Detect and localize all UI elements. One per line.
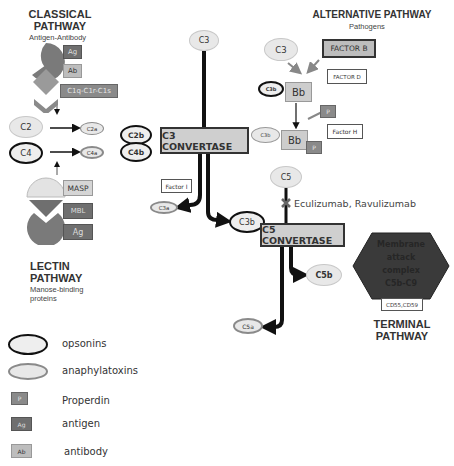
factor-d-box: FACTOR D — [327, 69, 367, 84]
factor-h-box: Factor H — [327, 124, 363, 139]
c5a-oval: C5a — [233, 318, 263, 334]
legend-label-opsonins: opsonins — [62, 338, 106, 349]
masp-box: MASP — [63, 180, 93, 196]
c1-complex-box: C1q-C1r-C1s — [60, 84, 118, 98]
c3-oval-top: C3 — [189, 30, 219, 51]
mac-line1: Membrane — [372, 238, 430, 251]
legend-opsonin-oval-icon — [8, 334, 48, 355]
terminal-title-line1: TERMINAL — [370, 318, 434, 330]
legend-label-properdin: Properdin — [62, 395, 110, 406]
classical-subtitle: Antigen-Antibody — [29, 33, 86, 42]
terminal-pathway-title: TERMINAL PATHWAY — [370, 318, 434, 342]
legend: opsonins anaphylatoxins P Properdin Ag a… — [0, 325, 200, 465]
lectin-subtitle-line1: Manose-binding — [30, 285, 83, 294]
ag-box-classical: Ag — [63, 45, 82, 59]
legend-label-antibody: antibody — [64, 446, 108, 457]
lectin-pathway-title: LECTIN PATHWAY — [30, 260, 82, 284]
c5-oval: C5 — [270, 166, 302, 188]
mac-line3: complex — [372, 264, 430, 277]
c3a-oval: C3a — [150, 201, 178, 214]
mbl-box: MBL — [63, 203, 93, 219]
c5-convertase-box: C5 CONVERTASE — [260, 223, 345, 247]
c3b-oval-alt-bottom: C3b — [251, 127, 280, 143]
bb-box-bottom: Bb — [281, 130, 308, 150]
c2a-oval: C2a — [80, 122, 104, 135]
legend-label-anaphylatoxins: anaphylatoxins — [62, 365, 138, 376]
c2-oval: C2 — [9, 116, 43, 138]
c3-convertase-box: C3 CONVERTASE — [160, 127, 249, 154]
c4-oval: C4 — [9, 142, 43, 164]
lectin-subtitle-line2: proteins — [30, 294, 83, 303]
legend-antibody-icon: Ab — [11, 444, 32, 458]
properdin-box-bound: P — [306, 141, 322, 154]
c4b-oval: C4b — [120, 142, 152, 162]
classical-title-line1: CLASSICAL — [20, 8, 100, 20]
classical-title-line2: PATHWAY — [20, 20, 100, 32]
bb-box-top: Bb — [285, 82, 312, 102]
c3-oval-alternative: C3 — [264, 38, 298, 61]
antigen-antibody-icon — [26, 43, 66, 113]
cd55-cd59-box: CD55,CD59 — [381, 298, 423, 311]
complement-inhibitors-label: Eculizumab, Ravulizumab — [294, 198, 416, 209]
lectin-subtitle: Manose-binding proteins — [30, 285, 83, 303]
ag-box-lectin: Ag — [63, 224, 93, 240]
alternative-pathway-title: ALTERNATIVE PATHWAY — [302, 9, 442, 21]
mac-line4: C5b-C9 — [372, 277, 430, 290]
classical-pathway-title: CLASSICAL PATHWAY — [20, 8, 100, 32]
legend-anaphylatoxin-oval-icon — [8, 363, 48, 380]
c3b-oval-alt-top: C3b — [258, 81, 284, 97]
factor-b-box: FACTOR B — [322, 39, 376, 58]
lectin-title-line2: PATHWAY — [30, 272, 82, 284]
terminal-title-line2: PATHWAY — [370, 330, 434, 342]
mac-line2: attack — [372, 251, 430, 264]
c5b-oval: C5b — [306, 264, 342, 286]
mac-label: Membrane attack complex C5b-C9 — [372, 238, 430, 290]
legend-antigen-icon: Ag — [11, 417, 32, 431]
lectin-title-line1: LECTIN — [30, 260, 82, 272]
legend-properdin-icon: P — [11, 392, 28, 405]
c4a-oval: C4a — [80, 146, 104, 159]
alternative-subtitle: Pathogens — [349, 22, 385, 31]
legend-label-antigen: antigen — [62, 418, 100, 429]
ab-box-classical: Ab — [63, 64, 82, 78]
properdin-box-free: P — [320, 105, 336, 118]
mbl-masp-icon — [26, 175, 66, 245]
factor-i-box: Factor I — [161, 179, 192, 193]
